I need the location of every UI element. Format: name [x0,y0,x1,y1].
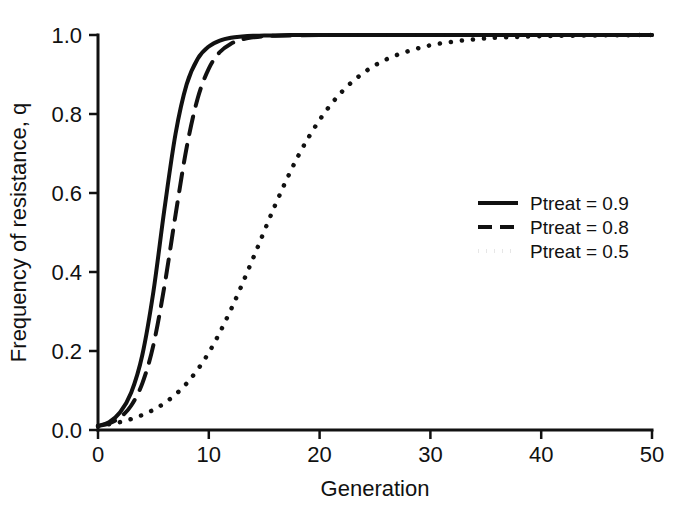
x-tick-label: 30 [418,442,442,467]
y-tick-label: 0.6 [51,181,82,206]
line-chart: 01020304050 0.00.20.40.60.81.0 Generatio… [0,0,684,513]
y-axis-title: Frequency of resistance, q [6,103,31,362]
y-tick-label: 0.4 [51,260,82,285]
legend: Ptreat = 0.9Ptreat = 0.8Ptreat = 0.5 [478,193,629,262]
y-tick-label: 0.8 [51,102,82,127]
x-tick-label: 50 [640,442,664,467]
y-tick-labels: 0.00.20.40.60.81.0 [51,23,82,443]
x-tick-labels: 01020304050 [92,442,664,467]
legend-label-2: Ptreat = 0.8 [530,217,629,238]
x-tick-label: 40 [529,442,553,467]
y-tick-label: 0.0 [51,418,82,443]
x-axis-title: Generation [321,476,430,501]
x-tick-label: 10 [197,442,221,467]
y-tick-label: 1.0 [51,23,82,48]
legend-label-3: Ptreat = 0.5 [530,241,629,262]
legend-label-1: Ptreat = 0.9 [530,193,629,214]
x-tick-label: 20 [307,442,331,467]
x-tick-label: 0 [92,442,104,467]
chart-figure: 01020304050 0.00.20.40.60.81.0 Generatio… [0,0,684,513]
y-tick-label: 0.2 [51,339,82,364]
